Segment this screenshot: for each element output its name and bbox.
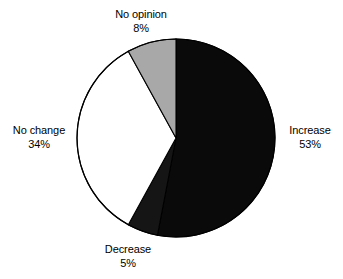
slice-label-decrease: Decrease 5% <box>82 243 174 270</box>
slice-label-increase: Increase 53% <box>279 124 341 151</box>
pie-chart: No opinion 8% Increase 53% No change 34%… <box>0 0 343 279</box>
slice-label-no-opinion-percent: 8% <box>96 22 186 36</box>
slice-label-increase-percent: 53% <box>279 138 341 152</box>
slice-label-no-change-percent: 34% <box>2 138 76 152</box>
slice-label-no-opinion-name: No opinion <box>96 8 186 22</box>
slice-label-increase-name: Increase <box>279 124 341 138</box>
slice-label-decrease-name: Decrease <box>82 243 174 257</box>
slice-label-decrease-percent: 5% <box>82 257 174 271</box>
slice-label-no-change-name: No change <box>2 124 76 138</box>
slice-label-no-change: No change 34% <box>2 124 76 151</box>
pie-slice-group <box>77 39 275 237</box>
slice-label-no-opinion: No opinion 8% <box>96 8 186 35</box>
